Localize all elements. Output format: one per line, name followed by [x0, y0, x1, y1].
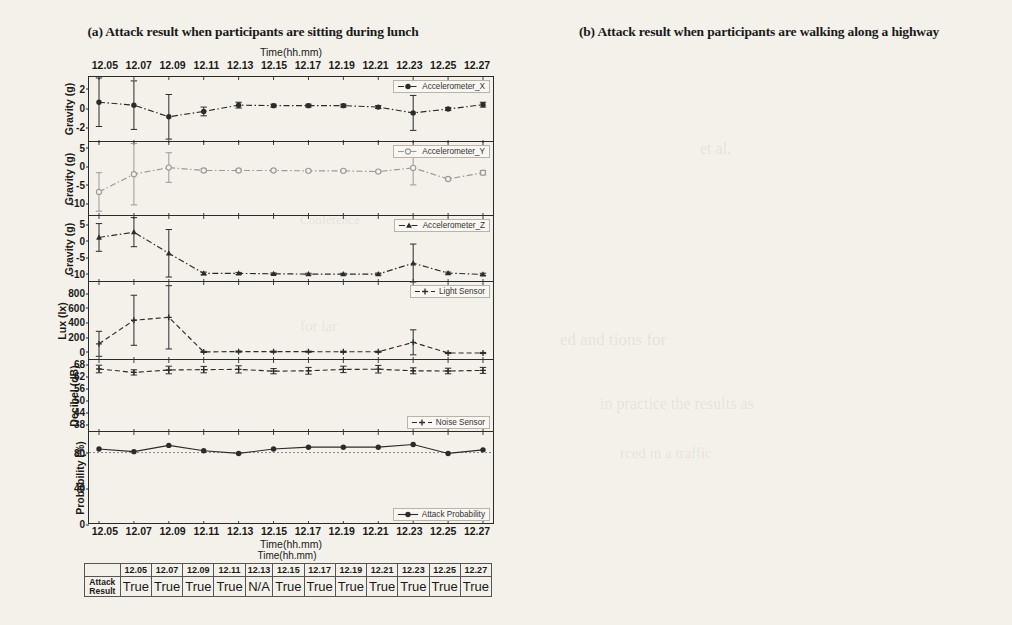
legend-label: Accelerometer_Z: [423, 221, 485, 230]
legend-attack-probability[interactable]: Attack Probability: [393, 508, 490, 521]
legend-noise-sensor[interactable]: Noise Sensor: [407, 416, 490, 429]
panel-a-bottom-tick-3: 12.11: [189, 525, 223, 537]
y-tick: 5: [79, 142, 85, 153]
panel-a-bottom-ticks: 12.0512.0712.0912.1112.1312.1512.1712.19…: [88, 525, 494, 537]
figure-root: Conference for lar ed and tions for et a…: [0, 0, 1012, 625]
table-cell-attack-result-10: True: [429, 577, 460, 597]
y-tick: 38: [74, 419, 85, 430]
y-tick: 5: [79, 219, 85, 230]
panel-a-bottom-axis-label: Time(hh.mm): [88, 538, 494, 550]
panel-a-top-tick-9: 12.23: [392, 59, 426, 71]
table-cell-attack-result-4: N/A: [245, 577, 273, 597]
table-row-header: AttackResult: [85, 577, 121, 597]
table-cell-attack-result-9: True: [398, 577, 429, 597]
y-tick-group: 8006004002000: [55, 282, 89, 359]
y-tick: -2: [76, 122, 85, 133]
y-tick: 400: [68, 317, 85, 328]
panel-a-top-tick-1: 12.07: [122, 59, 156, 71]
panel-a-top-tick-5: 12.15: [257, 59, 291, 71]
y-tick: 68: [74, 359, 85, 370]
table-col-header-3: 12.11: [214, 564, 245, 577]
y-tick: 800: [68, 288, 85, 299]
panel-a-bottom-tick-7: 12.19: [325, 525, 359, 537]
table-col-header-9: 12.23: [398, 564, 429, 577]
legend-marker-icon: [397, 510, 419, 519]
y-tick: 62: [74, 371, 85, 382]
panel-a-top-tick-6: 12.17: [291, 59, 325, 71]
table-col-header-2: 12.09: [183, 564, 214, 577]
subplot-a-accelerometer-x: Gravity (g)20-2 Accelerometer_X: [88, 76, 494, 142]
panel-a-bottom-tick-9: 12.23: [392, 525, 426, 537]
table-header-row: 12.0512.0712.0912.1112.1312.1512.1712.19…: [85, 564, 492, 577]
table-cell-attack-result-3: True: [214, 577, 245, 597]
subplot-a-noise-sensor: Decibel (dB)686256504438 Noise Sensor: [88, 360, 494, 432]
panel-a-bottom-tick-11: 12.27: [460, 525, 494, 537]
panel-a-title: (a) Attack result when participants are …: [0, 24, 506, 40]
table-cell-attack-result-6: True: [304, 577, 335, 597]
table-col-header-1: 12.07: [151, 564, 182, 577]
panel-a-top-tick-0: 12.05: [88, 59, 122, 71]
y-tick: -5: [76, 179, 85, 190]
legend-marker-icon: [397, 147, 419, 156]
panel-a-top-tick-10: 12.25: [426, 59, 460, 71]
y-tick-group: 80400: [55, 432, 89, 523]
y-tick-group: 20-2: [55, 77, 89, 141]
table-col-header-8: 12.21: [367, 564, 398, 577]
table-cell-attack-result-2: True: [183, 577, 214, 597]
y-tick: 0: [79, 161, 85, 172]
table-col-header-10: 12.25: [429, 564, 460, 577]
panel-a-top-tick-2: 12.09: [156, 59, 190, 71]
panel-a-top-ticks: 12.0512.0712.0912.1112.1312.1512.1712.19…: [88, 59, 494, 71]
legend-label: Attack Probability: [422, 510, 485, 519]
panel-a-table-caption: Time(hh.mm): [84, 550, 490, 561]
legend-label: Accelerometer_X: [422, 82, 485, 91]
y-tick: 56: [74, 383, 85, 394]
subplot-a-attack-probability: Probability (%)80400 Attack Probability: [88, 432, 494, 524]
table-col-header-11: 12.27: [460, 564, 491, 577]
panel-a-plot-stack: Gravity (g)20-2 Accelerometer_XGravity (…: [88, 76, 494, 524]
y-tick: 0: [79, 519, 85, 530]
y-tick: 50: [74, 395, 85, 406]
table-col-header-6: 12.17: [304, 564, 335, 577]
y-tick-group: 50-5-10: [55, 142, 89, 215]
y-tick: -5: [76, 252, 85, 263]
y-tick-group: 686256504438: [55, 360, 89, 431]
panel-a-bottom-tick-10: 12.25: [426, 525, 460, 537]
panel-a: (a) Attack result when participants are …: [0, 0, 506, 625]
subplot-a-light-sensor: Lux (lx)8006004002000 Light Sensor: [88, 282, 494, 360]
y-tick: -10: [71, 268, 85, 279]
y-tick: 0: [79, 346, 85, 357]
table-row: AttackResultTrueTrueTrueTrueN/ATrueTrueT…: [85, 577, 492, 597]
table-col-header-0: 12.05: [120, 564, 151, 577]
panel-a-top-tick-11: 12.27: [460, 59, 494, 71]
y-tick: 80: [74, 447, 85, 458]
y-tick: 44: [74, 407, 85, 418]
legend-accelerometer-y[interactable]: Accelerometer_Y: [393, 145, 490, 158]
legend-light-sensor[interactable]: Light Sensor: [410, 285, 490, 298]
panel-a-bottom-tick-6: 12.17: [291, 525, 325, 537]
legend-marker-icon: [411, 418, 433, 427]
legend-accelerometer-z[interactable]: Accelerometer_Z: [394, 219, 490, 232]
panel-b-title: (b) Attack result when participants are …: [506, 24, 1012, 40]
y-tick-group: 50-5-10: [55, 216, 89, 281]
y-tick: 200: [68, 332, 85, 343]
panel-a-bottom-tick-1: 12.07: [122, 525, 156, 537]
table-corner-cell: [85, 564, 121, 577]
subplot-a-accelerometer-y: Gravity (g)50-5-10 Accelerometer_Y: [88, 142, 494, 216]
table-cell-attack-result-5: True: [273, 577, 304, 597]
legend-label: Light Sensor: [439, 287, 485, 296]
panel-a-top-tick-8: 12.21: [359, 59, 393, 71]
y-tick: 0: [79, 103, 85, 114]
y-tick: 600: [68, 302, 85, 313]
panel-a-top-tick-4: 12.13: [223, 59, 257, 71]
legend-accelerometer-x[interactable]: Accelerometer_X: [393, 80, 490, 93]
table-cell-attack-result-7: True: [335, 577, 366, 597]
panel-a-bottom-tick-5: 12.15: [257, 525, 291, 537]
panel-a-result-table: 12.0512.0712.0912.1112.1312.1512.1712.19…: [84, 563, 492, 597]
legend-marker-icon: [414, 287, 436, 296]
panel-a-top-axis-label: Time(hh.mm): [88, 46, 494, 58]
panel-b: (b) Attack result when participants are …: [506, 0, 1012, 625]
table-cell-attack-result-0: True: [120, 577, 151, 597]
y-tick: 40: [74, 483, 85, 494]
panel-a-top-tick-3: 12.11: [189, 59, 223, 71]
